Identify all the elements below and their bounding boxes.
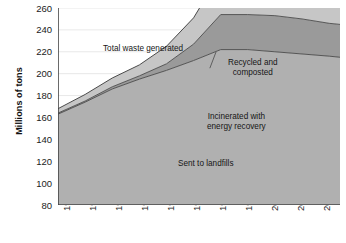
y-tick-label-220: 220	[18, 47, 52, 57]
annotation-recycled-and-composted: Recycled and composted	[228, 58, 278, 78]
area-sent-to-landfills	[58, 50, 340, 205]
y-tick-label-160: 160	[18, 113, 52, 123]
plot-area	[58, 8, 340, 205]
y-tick-label-260: 260	[18, 4, 52, 14]
y-tick-label-100: 100	[18, 179, 52, 189]
y-tick-label-80: 80	[18, 201, 52, 211]
annotation-recycled-line2: composted	[228, 68, 278, 78]
annotation-recycled-line1: Recycled and	[228, 58, 278, 68]
chart-container: Millions of tons 260 240 220 200 180 160…	[0, 0, 346, 243]
annotation-incinerated-line2: energy recovery	[207, 122, 266, 132]
y-tick-label-180: 180	[18, 91, 52, 101]
annotation-incinerated-line1: Incinerated with	[207, 112, 266, 122]
y-tick-label-240: 240	[18, 25, 52, 35]
annotation-sent-to-landfills: Sent to landfills	[178, 159, 234, 169]
stacked-area-svg	[58, 8, 340, 205]
annotation-incinerated-with-energy-recovery: Incinerated with energy recovery	[207, 112, 266, 132]
annotation-total-waste-generated: Total waste generated	[103, 44, 183, 54]
y-tick-label-120: 120	[18, 157, 52, 167]
y-tick-label-140: 140	[18, 135, 52, 145]
y-tick-label-200: 200	[18, 69, 52, 79]
